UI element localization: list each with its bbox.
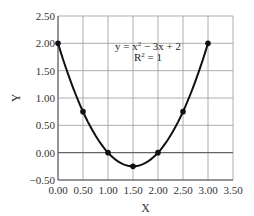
- x-tick-label: 2.00: [148, 184, 168, 196]
- data-point: [155, 150, 161, 156]
- chart: 0.000.501.001.502.002.503.003.502.502.00…: [0, 0, 254, 216]
- x-tick-label: 3.50: [223, 184, 243, 196]
- x-axis-label: X: [141, 201, 150, 215]
- x-tick-label: 1.50: [123, 184, 143, 196]
- y-tick-label: 2.50: [36, 10, 56, 22]
- x-tick-label: 1.00: [98, 184, 118, 196]
- y-tick-label: 0.50: [36, 119, 56, 131]
- y-tick-label: 1.00: [36, 92, 56, 104]
- data-point: [205, 41, 211, 47]
- y-tick-label: 2.00: [36, 37, 56, 49]
- x-tick-label: 2.50: [173, 184, 193, 196]
- r-squared-annotation: R2 = 1: [134, 51, 162, 63]
- y-tick-label: 0.00: [36, 147, 56, 159]
- data-point: [130, 164, 136, 170]
- y-axis-label: Y: [9, 93, 23, 102]
- x-tick-label: 3.00: [198, 184, 218, 196]
- data-point: [80, 109, 86, 115]
- data-point: [55, 41, 61, 47]
- data-point: [105, 150, 111, 156]
- y-tick-label: 1.50: [36, 65, 56, 77]
- x-tick-label: 0.50: [73, 184, 93, 196]
- data-point: [180, 109, 186, 115]
- y-tick-label: −0.50: [30, 174, 56, 186]
